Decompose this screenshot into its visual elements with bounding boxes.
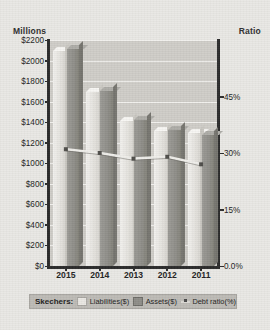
x-tick-mark — [65, 268, 67, 271]
y-tick-label: $1000 — [12, 159, 44, 168]
legend-label-debt-ratio: Debt ratio(%) — [192, 297, 236, 306]
x-tick-label: 2014 — [90, 270, 109, 280]
y2-tick-mark — [220, 266, 224, 268]
y2-tick-mark — [220, 209, 224, 211]
x-tick-label: 2011 — [192, 270, 211, 280]
ratio-data-marker — [165, 155, 169, 159]
y-tick-label: $0 — [12, 262, 44, 271]
x-tick-mark — [99, 268, 101, 271]
x-tick-label: 2013 — [124, 270, 143, 280]
y-tick-label: $400 — [12, 220, 44, 229]
y2-tick-mark — [220, 153, 224, 155]
ratio-data-marker — [64, 147, 68, 151]
x-tick-label: 2012 — [158, 270, 177, 280]
ratio-data-marker — [98, 151, 102, 155]
y-tick-label: $200 — [12, 241, 44, 250]
chart-canvas: Millions Ratio $0$200$400$600$800$1000$1… — [0, 0, 270, 330]
ratio-data-marker — [199, 162, 203, 166]
y2-tick-label: 15% — [224, 205, 240, 214]
x-tick-label: 2015 — [56, 270, 75, 280]
debt-ratio-line — [49, 40, 218, 266]
y-tick-label: $800 — [12, 179, 44, 188]
legend-item-assets[interactable]: Assets($) — [133, 297, 177, 306]
chart-legend: Skechers: Liabilities($) Assets($) Debt … — [29, 294, 237, 309]
y-tick-label: $1800 — [12, 77, 44, 86]
right-axis-title: Ratio — [239, 26, 261, 36]
swatch-dark-icon — [133, 297, 143, 306]
y-tick-label: $600 — [12, 200, 44, 209]
y-tick-label: $1400 — [12, 118, 44, 127]
swatch-light-icon — [77, 297, 87, 306]
y-tick-label: $2200 — [12, 36, 44, 45]
ratio-data-marker — [132, 157, 136, 161]
y-tick-label: $2000 — [12, 56, 44, 65]
y2-tick-label: 0.0% — [224, 262, 243, 271]
x-tick-mark — [166, 268, 168, 271]
legend-item-debt-ratio[interactable]: Debt ratio(%) — [181, 297, 236, 306]
x-tick-mark — [133, 268, 135, 271]
y2-tick-mark — [220, 96, 224, 98]
line-marker-icon — [181, 301, 190, 303]
left-axis-title: Millions — [13, 26, 46, 36]
y-tick-label: $1200 — [12, 138, 44, 147]
y2-tick-label: 45% — [224, 92, 240, 101]
y2-tick-label: 30% — [224, 149, 240, 158]
legend-label-liabilities: Liabilities($) — [90, 297, 129, 306]
legend-series-name: Skechers: — [35, 297, 73, 306]
legend-item-liabilities[interactable]: Liabilities($) — [77, 297, 129, 306]
legend-label-assets: Assets($) — [146, 297, 177, 306]
x-tick-mark — [200, 268, 202, 271]
y-tick-label: $1600 — [12, 97, 44, 106]
